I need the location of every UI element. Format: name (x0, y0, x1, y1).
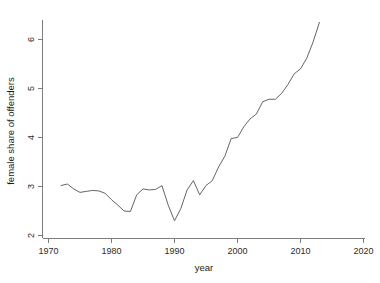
y-tick-label-2: 2 (26, 233, 36, 238)
x-tick-label-2020: 2020 (353, 246, 373, 256)
y-axis-ticks (38, 40, 43, 236)
x-tick-label-2010: 2010 (290, 246, 310, 256)
line-chart-plot: 6 5 4 3 2 1970 1980 1990 2000 2010 2020 … (0, 0, 380, 283)
x-axis-title: year (195, 262, 213, 273)
y-tick-label-5: 5 (26, 86, 36, 91)
y-axis-title: female share of offenders (5, 77, 16, 185)
x-tick-label-1990: 1990 (164, 246, 184, 256)
y-axis-tick-labels: 6 5 4 3 2 (26, 37, 36, 238)
y-tick-label-4: 4 (26, 135, 36, 140)
x-axis-tick-labels: 1970 1980 1990 2000 2010 2020 (38, 246, 373, 256)
x-tick-label-1970: 1970 (38, 246, 58, 256)
y-tick-label-6: 6 (26, 37, 36, 42)
x-axis-ticks (49, 239, 364, 244)
x-tick-label-1980: 1980 (101, 246, 121, 256)
x-tick-label-2000: 2000 (227, 246, 247, 256)
data-series-line (61, 22, 319, 220)
chart-figure: 6 5 4 3 2 1970 1980 1990 2000 2010 2020 … (0, 0, 380, 283)
y-tick-label-3: 3 (26, 184, 36, 189)
